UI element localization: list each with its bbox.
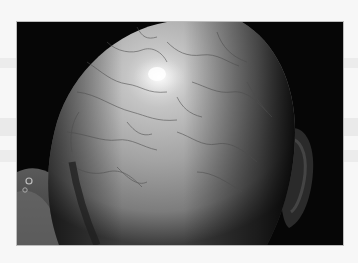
image-canvas [0, 0, 358, 263]
scalp-photo [17, 22, 343, 245]
scalp-illustration [17, 22, 343, 245]
